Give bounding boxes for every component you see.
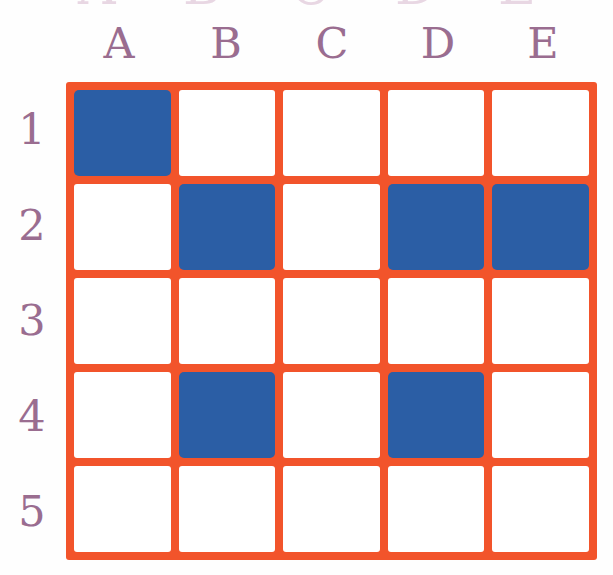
grid-cell-e5[interactable] — [492, 466, 589, 552]
row-header-2: 2 — [6, 202, 58, 248]
grid-cell-e3[interactable] — [492, 278, 589, 364]
grid-cell-c1[interactable] — [283, 90, 380, 176]
column-header-a: A — [89, 20, 149, 66]
grid-cell-d5[interactable] — [388, 466, 485, 552]
grid-cell-d1[interactable] — [388, 90, 485, 176]
grid-cell-c2[interactable] — [283, 184, 380, 270]
grid-cell-b5[interactable] — [179, 466, 276, 552]
row-header-column: 1 2 3 4 5 — [0, 0, 66, 575]
grid-cell-e2[interactable] — [492, 184, 589, 270]
grid-cell-c3[interactable] — [283, 278, 380, 364]
grid-cell-a2[interactable] — [74, 184, 171, 270]
grid-cell-c4[interactable] — [283, 372, 380, 458]
row-header-3: 3 — [6, 297, 58, 343]
coordinate-grid — [66, 82, 597, 560]
worksheet-canvas: A B C D E A B C D E 1 2 3 4 5 — [0, 0, 613, 575]
grid-cell-b2[interactable] — [179, 184, 276, 270]
row-header-5: 5 — [6, 488, 58, 534]
column-header-e: E — [513, 20, 573, 66]
row-header-1: 1 — [6, 106, 58, 152]
grid-cell-a4[interactable] — [74, 372, 171, 458]
grid-cell-b1[interactable] — [179, 90, 276, 176]
column-header-d: D — [408, 20, 468, 66]
grid-cell-c5[interactable] — [283, 466, 380, 552]
grid-cell-d2[interactable] — [388, 184, 485, 270]
grid-cell-e4[interactable] — [492, 372, 589, 458]
grid-cell-b3[interactable] — [179, 278, 276, 364]
grid-cell-b4[interactable] — [179, 372, 276, 458]
grid-cell-a3[interactable] — [74, 278, 171, 364]
grid-cell-a5[interactable] — [74, 466, 171, 552]
grid-cell-a1[interactable] — [74, 90, 171, 176]
column-header-row: A B C D E — [0, 0, 613, 82]
column-header-b: B — [196, 20, 256, 66]
grid-cell-d4[interactable] — [388, 372, 485, 458]
grid-cell-d3[interactable] — [388, 278, 485, 364]
row-header-4: 4 — [6, 393, 58, 439]
column-header-c: C — [302, 20, 362, 66]
grid-cell-e1[interactable] — [492, 90, 589, 176]
